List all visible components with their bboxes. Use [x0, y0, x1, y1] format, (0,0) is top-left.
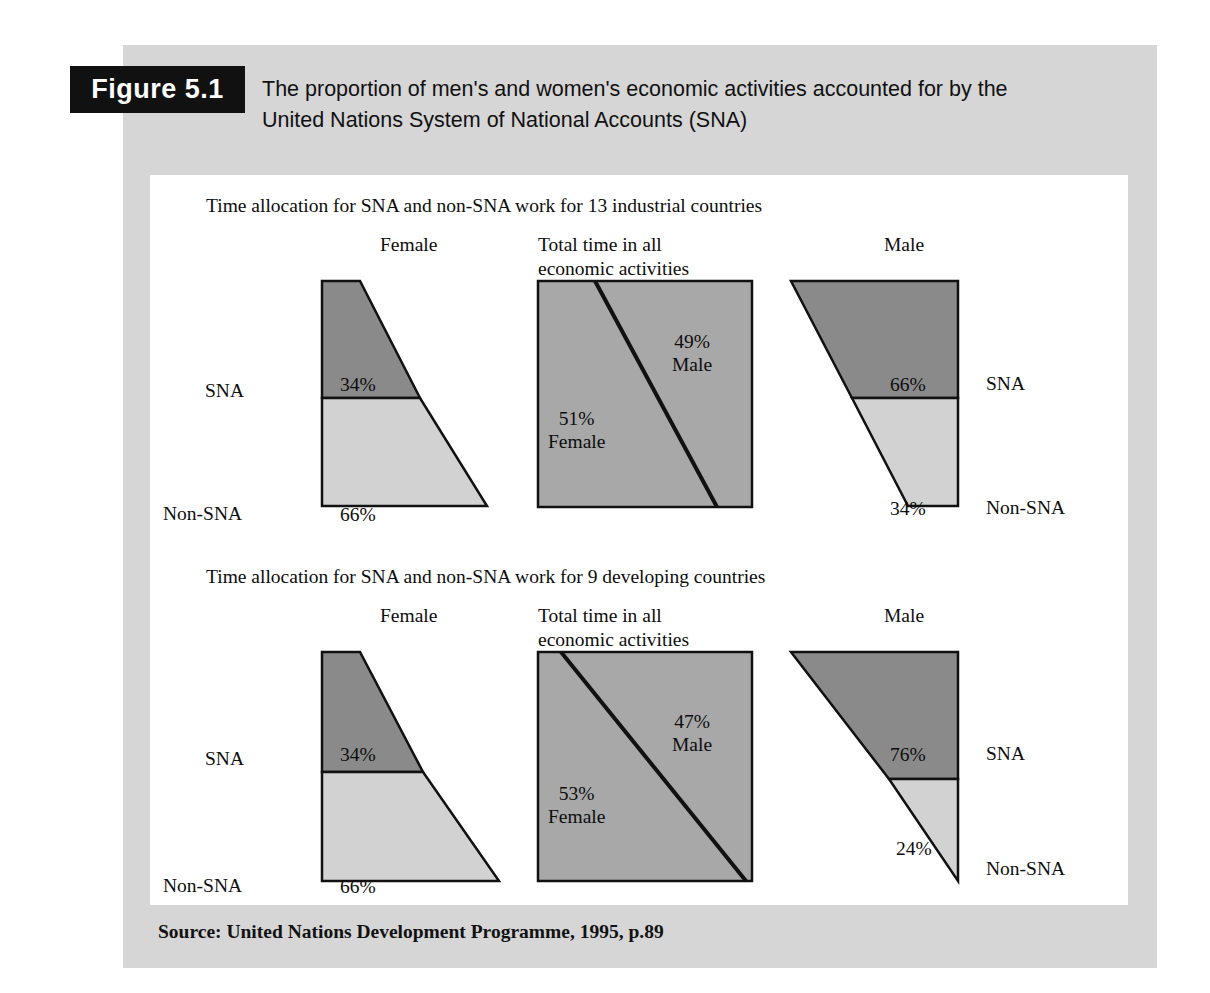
column-title-total-line-2: economic activities — [538, 257, 689, 281]
female-non-sna-region-industrial — [322, 398, 487, 506]
figure-caption-line-2: United Nations System of National Accoun… — [262, 105, 1072, 136]
figure-number-text: Figure 5.1 — [91, 74, 224, 105]
total-male-value-industrial: 49% Male — [672, 330, 712, 377]
male-non-sna-label-developing: Non-SNA — [986, 858, 1065, 880]
column-title-total-line-1: Total time in all — [538, 233, 689, 257]
female-sna-label-industrial: SNA — [205, 380, 244, 402]
female-sna-value-industrial: 34% — [340, 373, 376, 396]
female-non-sna-value-industrial: 66% — [340, 503, 376, 526]
male-non-sna-region-developing — [889, 779, 958, 881]
male-sna-value-industrial: 66% — [890, 373, 926, 396]
total-female-value-industrial: 51% Female — [548, 407, 605, 454]
male-non-sna-value-industrial: 34% — [890, 497, 926, 520]
female-sna-label-developing: SNA — [205, 748, 244, 770]
male-sna-region-industrial — [791, 281, 958, 398]
male-non-sna-value-developing: 24% — [896, 837, 932, 860]
female-non-sna-value-developing: 66% — [340, 875, 376, 898]
male-sna-value-developing: 76% — [890, 743, 926, 766]
total-female-caption-industrial: Female — [548, 430, 605, 453]
male-sna-label-developing: SNA — [986, 743, 1025, 765]
total-female-percent-industrial: 51% — [548, 407, 605, 430]
figure-number-badge: Figure 5.1 — [70, 66, 245, 113]
column-title-total-line-1-developing: Total time in all — [538, 604, 689, 628]
female-diagram-developing — [315, 649, 515, 889]
total-area-industrial — [538, 281, 752, 507]
column-title-female-developing: Female — [380, 604, 437, 628]
male-sna-label-industrial: SNA — [986, 373, 1025, 395]
total-female-caption-developing: Female — [548, 805, 605, 828]
column-title-male-industrial: Male — [884, 233, 924, 257]
total-female-percent-developing: 53% — [548, 782, 605, 805]
panel-heading-industrial: Time allocation for SNA and non-SNA work… — [206, 195, 762, 217]
female-sna-value-developing: 34% — [340, 743, 376, 766]
figure-caption-line-1: The proportion of men's and women's econ… — [262, 74, 1072, 105]
source-line: Source: United Nations Development Progr… — [158, 921, 664, 943]
male-non-sna-label-industrial: Non-SNA — [986, 497, 1065, 519]
male-diagram-industrial — [786, 278, 976, 513]
column-title-total-industrial: Total time in all economic activities — [538, 233, 689, 281]
panel-heading-developing: Time allocation for SNA and non-SNA work… — [206, 566, 765, 588]
male-non-sna-region-industrial — [852, 398, 958, 506]
column-title-female-industrial: Female — [380, 233, 437, 257]
column-title-male-developing: Male — [884, 604, 924, 628]
male-sna-region-developing — [791, 652, 958, 779]
total-male-percent-developing: 47% — [672, 710, 712, 733]
total-female-value-developing: 53% Female — [548, 782, 605, 829]
female-non-sna-label-industrial: Non-SNA — [163, 503, 242, 525]
total-male-caption-developing: Male — [672, 733, 712, 756]
total-male-value-developing: 47% Male — [672, 710, 712, 757]
total-diagram-developing — [533, 649, 758, 889]
column-title-total-line-2-developing: economic activities — [538, 628, 689, 652]
total-diagram-industrial — [533, 278, 758, 513]
total-male-caption-industrial: Male — [672, 353, 712, 376]
total-male-percent-industrial: 49% — [672, 330, 712, 353]
chart-plate: Time allocation for SNA and non-SNA work… — [150, 175, 1128, 905]
figure-caption: The proportion of men's and women's econ… — [262, 74, 1072, 135]
column-title-total-developing: Total time in all economic activities — [538, 604, 689, 652]
female-non-sna-label-developing: Non-SNA — [163, 875, 242, 897]
female-non-sna-region-developing — [322, 772, 499, 881]
male-diagram-developing — [786, 649, 976, 889]
